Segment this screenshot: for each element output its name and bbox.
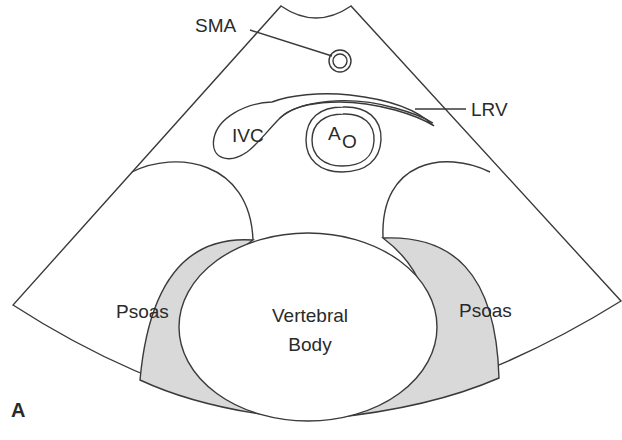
label-psoas-left: Psoas [116, 301, 169, 322]
vertebral-body-shape [179, 233, 437, 421]
sma-inner [333, 54, 347, 68]
left-upper-region [132, 162, 253, 240]
right-upper-region [383, 162, 490, 238]
label-vertebral: Vertebral [272, 305, 348, 326]
label-ivc: IVC [232, 125, 264, 146]
diagram-svg: SMA LRV IVC A O Vertebral Body Psoas Pso… [0, 0, 622, 440]
label-sma: SMA [195, 15, 237, 36]
sma-leader-line [250, 30, 332, 56]
label-body: Body [288, 334, 332, 355]
ultrasound-diagram: SMA LRV IVC A O Vertebral Body Psoas Pso… [0, 0, 622, 440]
label-psoas-right: Psoas [459, 300, 512, 321]
label-aorta-main: A [328, 123, 341, 144]
panel-label: A [11, 399, 25, 421]
label-aorta-sub: O [342, 131, 357, 152]
label-lrv: LRV [471, 99, 508, 120]
lrv-vessel [280, 101, 433, 123]
